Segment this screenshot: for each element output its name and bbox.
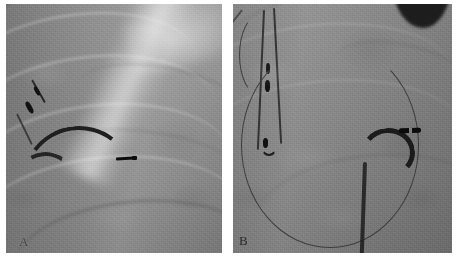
looped-lead-apex — [260, 132, 278, 156]
guidewire-upper-limb — [239, 14, 281, 96]
panel-b-label: B — [239, 234, 248, 247]
looped-lead-limb-inner — [273, 8, 282, 144]
rib-shadow — [6, 38, 222, 206]
rib-shadow — [6, 142, 222, 253]
rib-shadow — [233, 68, 452, 224]
curved-catheter-shaft — [15, 119, 144, 248]
rib-shadow — [6, 88, 222, 253]
catheter-tip-marker — [116, 157, 134, 161]
panel-a-tissue-mottle — [6, 4, 222, 253]
fluoroscopy-panel-a: A — [6, 4, 222, 253]
fluoroscopy-figure: A B — [0, 0, 462, 266]
lead-electrode-3 — [263, 138, 268, 148]
guidewire-loop — [241, 42, 419, 248]
rib-shadow — [6, 4, 222, 109]
lead-entry-segment — [233, 9, 243, 50]
panel-b-image-grain — [233, 4, 452, 253]
upper-lucency-region — [119, 4, 222, 79]
catheter-tip-marker — [399, 128, 421, 134]
curved-catheter-proximal — [6, 143, 87, 228]
panel-a-label: A — [19, 235, 28, 248]
rib-shadow — [7, 189, 222, 253]
lead-electrode-2 — [265, 80, 270, 92]
rib-shadow — [233, 4, 452, 111]
mediastinal-bright-band — [58, 4, 208, 191]
fluoroscopy-panel-b: B — [233, 4, 452, 253]
rib-shadow — [233, 10, 452, 160]
lead-electrode-1 — [266, 63, 270, 74]
hooked-catheter-shaft — [360, 162, 367, 253]
lead-electrode-proximal — [33, 86, 41, 97]
rib-shadow — [249, 145, 452, 253]
rib-shadow — [6, 4, 206, 156]
hooked-catheter-curve — [359, 125, 418, 180]
panel-b-tissue-mottle — [233, 4, 452, 253]
catheter-tip-marker-shadow — [132, 156, 137, 160]
soft-tissue-line — [71, 52, 222, 148]
implanted-device-shadow — [393, 4, 451, 28]
catheter-tip-marker-gap — [409, 128, 412, 133]
soft-tissue-line — [43, 120, 222, 202]
pacing-lead-shaft — [31, 80, 46, 104]
soft-tissue-line — [323, 27, 452, 133]
lead-electrode-distal — [24, 101, 35, 115]
panel-a-image-grain — [6, 4, 222, 253]
looped-lead-limb-outer — [257, 10, 265, 150]
pacing-lead-tail — [16, 114, 33, 145]
